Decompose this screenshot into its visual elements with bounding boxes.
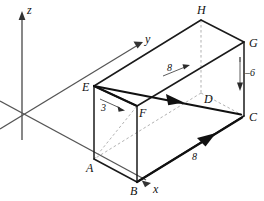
measure-label-edge-bc: 8: [192, 151, 197, 162]
axis-label-z: z: [26, 3, 32, 17]
measure-label-edge-top: 8: [167, 62, 172, 73]
x-axis-arrowhead: [142, 180, 151, 187]
vertex-label-H: H: [196, 3, 207, 17]
leader-8top-arrowhead: [183, 64, 191, 69]
vertex-label-B: B: [130, 184, 138, 198]
vertex-label-F: F: [138, 106, 147, 120]
vertex-label-A: A: [85, 161, 94, 175]
axis-label-x: x: [152, 182, 159, 196]
hidden-edge-AF-diagonal: [94, 106, 137, 159]
edge-HG: [201, 20, 244, 42]
vertex-label-G: G: [249, 36, 258, 50]
leader-3-arrowhead: [118, 106, 126, 112]
edge-AB: [94, 159, 137, 182]
y-axis-line: [0, 45, 138, 129]
z-axis-arrowhead: [19, 11, 26, 20]
vertex-label-E: E: [81, 80, 90, 94]
vertex-label-D: D: [203, 92, 213, 106]
edge-EH: [94, 20, 201, 86]
measure-label-vertical-drop: –6: [244, 67, 255, 78]
box-vector-diagram: z y x A B C D E F G H 3 8 8 –6: [0, 0, 264, 201]
vertex-label-C: C: [249, 110, 258, 124]
measure-label-edge-ef: 3: [100, 102, 106, 113]
axes-group: [0, 11, 151, 187]
vector-arrows-group: [94, 86, 242, 182]
vector-BC-shaft: [137, 118, 242, 183]
leader-drop-arrowhead: [237, 83, 243, 92]
diagram-canvas: z y x A B C D E F G H 3 8 8 –6: [0, 0, 264, 201]
axis-label-y: y: [144, 32, 151, 46]
